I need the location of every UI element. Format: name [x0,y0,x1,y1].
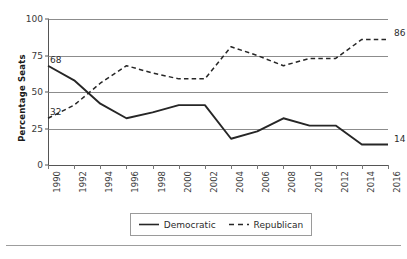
x-tick-label-1998: 1998 [157,171,167,193]
legend-label-democratic: Democratic [164,220,216,230]
x-tick-mark-2004 [231,165,232,169]
y-tick-label-0: 0 [37,160,43,170]
value-label-democratic-2016: 14 [394,134,405,144]
x-tick-label-2010: 2010 [314,171,324,193]
y-axis-title: Percentage Seats [17,28,27,168]
bottom-divider [6,245,401,246]
chart-figure: Percentage Seats 0255075100 199019921994… [0,0,407,259]
x-tick-mark-1996 [126,165,127,169]
y-tick-label-50: 50 [32,87,43,97]
x-tick-mark-2002 [205,165,206,169]
legend-swatch-dashed [229,220,249,229]
data-lines [48,19,388,165]
legend-label-republican: Republican [254,220,304,230]
x-tick-label-1994: 1994 [104,171,114,193]
legend-swatch-solid [139,220,159,229]
series-line-democratic [48,66,388,145]
y-tick-label-25: 25 [32,124,43,134]
x-tick-mark-2014 [362,165,363,169]
legend-item-democratic[interactable]: Democratic [139,220,216,230]
chart-legend: Democratic Republican [130,213,312,236]
plot-area: 0255075100 19901992199419961998200020022… [48,19,388,165]
x-tick-mark-2000 [179,165,180,169]
x-tick-mark-2008 [283,165,284,169]
x-tick-mark-1994 [100,165,101,169]
x-tick-mark-2006 [257,165,258,169]
x-tick-label-2016: 2016 [392,171,402,193]
x-tick-mark-1998 [153,165,154,169]
x-tick-label-2012: 2012 [340,171,350,193]
x-tick-label-2004: 2004 [235,171,245,193]
value-label-democratic-1990: 68 [50,55,61,65]
x-tick-label-1990: 1990 [52,171,62,193]
value-label-republican-1990: 32 [50,107,61,117]
x-tick-mark-1990 [48,165,49,169]
x-tick-label-2002: 2002 [209,171,219,193]
x-tick-label-1992: 1992 [78,171,88,193]
x-tick-mark-2010 [310,165,311,169]
x-tick-label-1996: 1996 [130,171,140,193]
x-tick-mark-2016 [388,165,389,169]
x-tick-label-2008: 2008 [287,171,297,193]
y-tick-label-100: 100 [26,14,43,24]
value-label-republican-2016: 86 [394,28,405,38]
y-tick-label-75: 75 [32,51,43,61]
x-tick-label-2014: 2014 [366,171,376,193]
x-tick-label-2000: 2000 [183,171,193,193]
series-line-republican [48,39,388,118]
x-tick-label-2006: 2006 [261,171,271,193]
legend-item-republican[interactable]: Republican [229,220,304,230]
gridline-0 [48,165,388,166]
x-tick-mark-2012 [336,165,337,169]
x-tick-mark-1992 [74,165,75,169]
